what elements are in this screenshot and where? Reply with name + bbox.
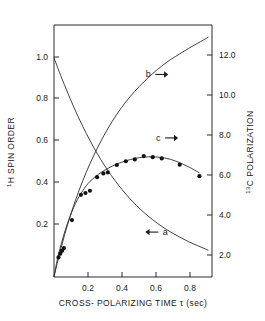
- curve-label-b: b: [146, 69, 151, 79]
- plot-frame: [54, 25, 212, 277]
- series-c-curve: [54, 157, 199, 277]
- annotation-a: a: [145, 227, 168, 237]
- x-axis-title: CROSS- POLARIZING TIME τ (sec): [59, 298, 207, 308]
- x-axis-tick-labels: 0.2 0.4 0.6 0.8: [82, 283, 196, 293]
- data-point: [124, 159, 128, 163]
- curve-a-path: [54, 58, 208, 250]
- x-axis-ticks: [88, 272, 190, 277]
- curve-c-path: [54, 157, 199, 277]
- x-tick-label-0_4: 0.4: [116, 283, 128, 293]
- data-point: [95, 175, 99, 179]
- data-point: [56, 255, 60, 259]
- left-axis-tick-labels: 1.0 0.8 0.6 0.4 0.2: [36, 52, 48, 229]
- data-point: [115, 163, 119, 167]
- right-axis-title: 13C POLARIZATION: [245, 110, 256, 193]
- right-axis-title-group: 13C POLARIZATION: [245, 110, 256, 193]
- data-point: [106, 170, 110, 174]
- left-axis-title-main: H SPIN ORDER: [6, 117, 16, 183]
- x-tick-label-0_6: 0.6: [150, 283, 162, 293]
- right-tick-label-12_0: 12.0: [219, 50, 236, 60]
- right-axis-tick-labels: 12.0 10.0 8.0 6.0 4.0 2.0: [219, 50, 236, 260]
- right-tick-label-10_0: 10.0: [219, 90, 236, 100]
- arrow-b-head-right-icon: [164, 71, 168, 77]
- right-tick-label-8_0: 8.0: [219, 130, 231, 140]
- curve-b-path: [54, 37, 208, 277]
- data-point: [70, 218, 74, 222]
- data-point: [151, 155, 155, 159]
- left-tick-label-0_2: 0.2: [36, 219, 48, 229]
- arrow-a-head-left-icon: [145, 229, 149, 235]
- data-point: [62, 246, 66, 250]
- left-tick-label-1_0: 1.0: [36, 52, 48, 62]
- series-b-curve: [54, 37, 208, 277]
- series-a-curve: [54, 58, 208, 250]
- x-tick-label-0_2: 0.2: [82, 283, 94, 293]
- left-axis-title-group: 1H SPIN ORDER: [6, 117, 17, 187]
- figure-container: 1.0 0.8 0.6 0.4 0.2 12.0 10.0 8.0 6.0 4.…: [0, 0, 265, 321]
- data-point: [197, 174, 201, 178]
- right-tick-label-6_0: 6.0: [219, 170, 231, 180]
- chart-canvas: 1.0 0.8 0.6 0.4 0.2 12.0 10.0 8.0 6.0 4.…: [0, 0, 265, 321]
- left-tick-label-0_6: 0.6: [36, 135, 48, 145]
- data-point: [79, 193, 83, 197]
- curve-label-a: a: [163, 227, 168, 237]
- data-point: [88, 189, 92, 193]
- data-point: [101, 171, 105, 175]
- data-point: [142, 154, 146, 158]
- data-point: [133, 157, 137, 161]
- annotation-c: c: [156, 133, 178, 143]
- data-point: [160, 156, 164, 160]
- left-tick-label-0_4: 0.4: [36, 177, 48, 187]
- left-axis-ticks: [54, 57, 59, 224]
- annotation-b: b: [146, 69, 169, 79]
- left-tick-label-0_8: 0.8: [36, 93, 48, 103]
- series-c-datapoints: [56, 154, 201, 260]
- arrow-c-head-right-icon: [174, 135, 178, 141]
- right-axis-ticks: [207, 55, 212, 255]
- right-tick-label-2_0: 2.0: [219, 250, 231, 260]
- right-tick-label-4_0: 4.0: [219, 210, 231, 220]
- curve-label-c: c: [156, 133, 161, 143]
- x-tick-label-0_8: 0.8: [184, 283, 196, 293]
- right-axis-title-main: C POLARIZATION: [245, 110, 255, 186]
- data-point: [83, 191, 87, 195]
- left-axis-title: 1H SPIN ORDER: [6, 117, 17, 187]
- data-point: [178, 163, 182, 167]
